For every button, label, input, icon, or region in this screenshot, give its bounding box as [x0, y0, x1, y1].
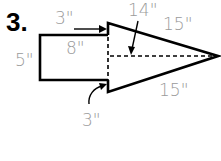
- label-rect-height: 5": [15, 50, 34, 70]
- label-triangle-bottom-side: 15": [159, 80, 188, 100]
- bottom-overhang-arrowhead: [99, 83, 107, 90]
- label-triangle-height: 14": [128, 0, 157, 20]
- composite-figure: 3. 3" 5" 8" 14" 15" 15" 3": [0, 0, 221, 161]
- height-arrowhead: [128, 46, 135, 55]
- label-bottom-overhang: 3": [82, 110, 101, 130]
- problem-number: 3.: [6, 7, 28, 37]
- label-top-overhang: 3": [55, 8, 74, 28]
- height-arrow: [132, 21, 138, 49]
- label-triangle-top-side: 15": [163, 14, 192, 34]
- top-overhang-arrowhead: [99, 25, 107, 33]
- bottom-overhang-arrow: [89, 86, 102, 104]
- label-rect-width: 8": [66, 38, 85, 58]
